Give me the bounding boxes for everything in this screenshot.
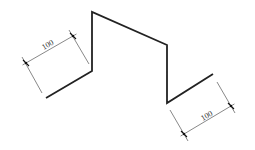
dimension-label-right: 100 [199, 109, 214, 123]
extension-line-right-1 [170, 110, 188, 141]
dimension-label-left: 100 [40, 38, 55, 52]
dimension-left: 100 [22, 30, 89, 93]
z-profile-line [46, 12, 213, 103]
tick-mark-icon [181, 131, 187, 137]
dimension-right: 100 [170, 82, 235, 141]
tick-mark-icon [70, 33, 76, 39]
tick-mark-icon [23, 60, 29, 66]
extension-line-right-2 [217, 82, 235, 113]
z-profile-diagram: 100 100 [0, 0, 255, 150]
tick-mark-icon [228, 103, 234, 109]
